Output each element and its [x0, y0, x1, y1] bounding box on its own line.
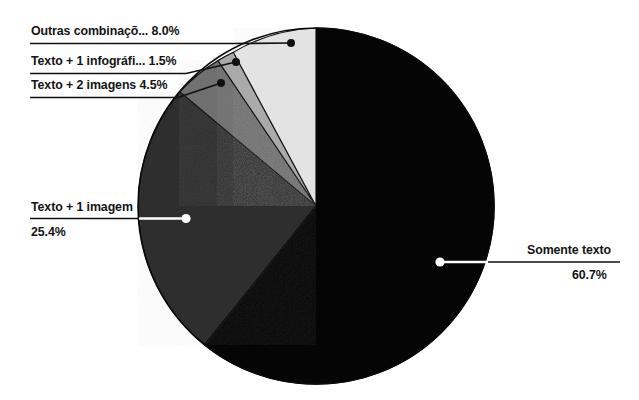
callout-dot-2imagens — [217, 79, 225, 87]
callout-label-texto-2-imagens: Texto + 2 imagens 4.5% — [31, 78, 167, 93]
callout-value-texto-1-imagem: 25.4% — [31, 225, 66, 240]
callout-dot-outras — [287, 39, 295, 47]
callout-label-outras-combinacoes: Outras combinaçõ... 8.0% — [31, 24, 179, 39]
pie-chart-figure: Outras combinaçõ... 8.0% Texto + 1 infog… — [0, 0, 639, 400]
callout-value-somente-texto: 60.7% — [572, 268, 607, 283]
callout-label-somente-texto: Somente texto — [527, 243, 611, 258]
callout-label-texto-1-infografico: Texto + 1 infográfi... 1.5% — [31, 54, 176, 69]
callout-dot-infografico — [232, 58, 240, 66]
callout-label-texto-1-imagem: Texto + 1 imagem — [31, 200, 133, 215]
callout-dot-1imagem — [181, 214, 190, 223]
callout-leader-outras — [232, 43, 291, 44]
